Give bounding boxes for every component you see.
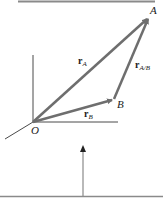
label-rAB: rA/B — [135, 59, 151, 72]
z-axis — [5, 122, 33, 139]
label-A: A — [149, 4, 157, 16]
label-rA: rA — [78, 55, 87, 68]
label-rAB-sub: A/B — [138, 64, 150, 72]
arrowhead-icon — [80, 145, 86, 152]
vector-diagram: A B O rA rB rA/B — [0, 0, 163, 198]
label-rB-sub: B — [88, 113, 93, 121]
label-B: B — [117, 98, 124, 110]
label-rA-sub: A — [81, 60, 87, 68]
vector-rAB — [114, 19, 148, 99]
label-rB: rB — [84, 108, 93, 121]
label-O: O — [31, 124, 39, 136]
